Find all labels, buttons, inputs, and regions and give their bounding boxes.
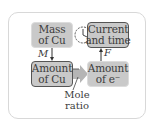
arrow-up-f <box>99 48 103 61</box>
box-amount-of-electrons: Amount of e⁻ <box>87 61 129 87</box>
box-current-line2: and time <box>85 35 130 47</box>
box-mass-line2: of Cu <box>38 35 65 47</box>
box-mass-of-cu: Mass of Cu <box>31 22 73 48</box>
box-amount-of-cu: Amount of Cu <box>31 61 73 87</box>
box-amount-e-line2: of e⁻ <box>96 74 120 86</box>
arrow-right-mole-ratio <box>73 65 88 83</box>
box-current-and-time: Current and time <box>87 22 129 48</box>
mole-ratio-line1: Mole <box>60 89 94 100</box>
arrow-down-m <box>50 48 54 61</box>
label-molar-mass: M <box>38 48 48 59</box>
mole-ratio-label: Mole ratio <box>60 89 94 111</box>
box-amount-cu-line2: of Cu <box>38 74 65 86</box>
mole-ratio-line2: ratio <box>60 100 94 111</box>
label-faraday-constant: F <box>104 47 111 58</box>
